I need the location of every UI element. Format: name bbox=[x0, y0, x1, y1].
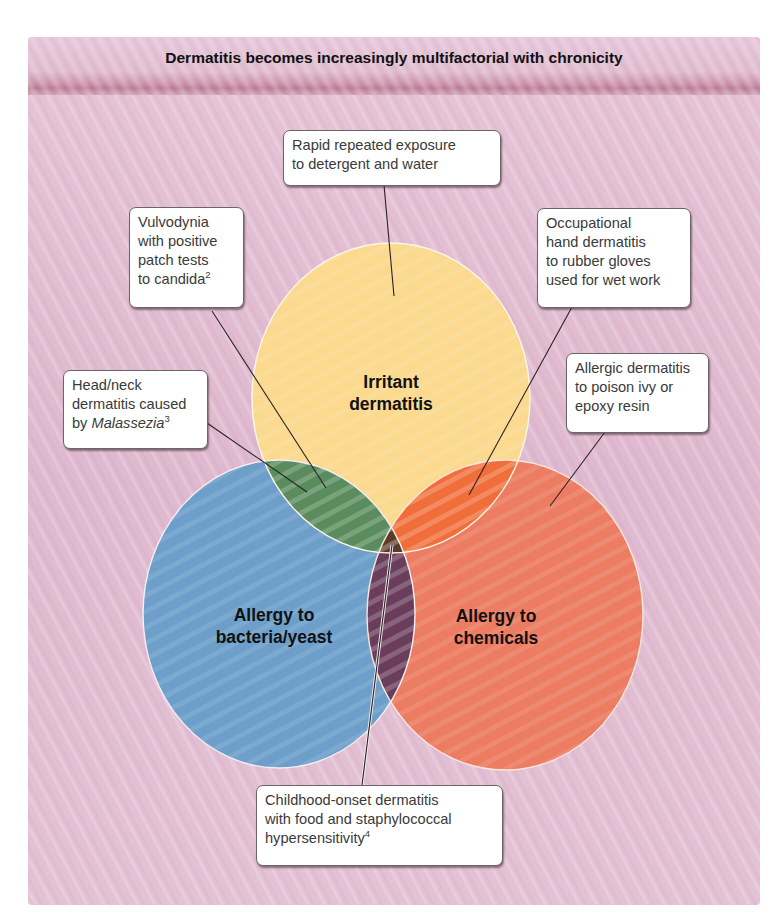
callout-text: by bbox=[72, 415, 91, 431]
label-line: Allergy to bbox=[194, 604, 354, 626]
callout-line: to candida2 bbox=[138, 270, 235, 289]
callout-line: Head/neck bbox=[72, 376, 199, 395]
callout-vulvodynia: Vulvodynia with positive patch tests to … bbox=[129, 207, 244, 308]
label-allergy-chemicals: Allergy to chemicals bbox=[426, 605, 566, 649]
callout-line: patch tests bbox=[138, 251, 235, 270]
callout-line: epoxy resin bbox=[575, 397, 700, 416]
label-line: bacteria/yeast bbox=[194, 626, 354, 648]
callout-line: Allergic dermatitis bbox=[575, 359, 700, 378]
callout-line: Vulvodynia bbox=[138, 213, 235, 232]
callout-line: hand dermatitis bbox=[546, 233, 682, 252]
callout-line: dermatitis caused bbox=[72, 395, 199, 414]
footnote-ref: 3 bbox=[164, 413, 169, 424]
label-line: Allergy to bbox=[426, 605, 566, 627]
callout-line: Occupational bbox=[546, 214, 682, 233]
callout-allergic-dermatitis: Allergic dermatitis to poison ivy or epo… bbox=[566, 353, 709, 433]
callout-headneck: Head/neck dermatitis caused by Malassezi… bbox=[63, 370, 208, 449]
footnote-ref: 4 bbox=[365, 828, 370, 839]
callout-line: to detergent and water bbox=[292, 155, 492, 174]
callout-text: hypersensitivity bbox=[265, 830, 365, 846]
callout-line: Rapid repeated exposure bbox=[292, 136, 492, 155]
diagram-panel: Dermatitis becomes increasingly multifac… bbox=[28, 37, 760, 905]
callout-childhood-onset: Childhood-onset dermatitis with food and… bbox=[256, 785, 503, 866]
callout-line: to rubber gloves bbox=[546, 252, 682, 271]
callout-rapid-exposure: Rapid repeated exposure to detergent and… bbox=[283, 130, 501, 186]
callout-text: to candida bbox=[138, 271, 205, 287]
callout-line: by Malassezia3 bbox=[72, 414, 199, 433]
callout-line: with positive bbox=[138, 232, 235, 251]
callout-line: hypersensitivity4 bbox=[265, 829, 494, 848]
callout-line: to poison ivy or bbox=[575, 378, 700, 397]
callout-line: used for wet work bbox=[546, 271, 682, 290]
label-line: chemicals bbox=[426, 627, 566, 649]
organism-name: Malassezia bbox=[91, 415, 164, 431]
callout-line: with food and staphylococcal bbox=[265, 810, 494, 829]
label-line: Irritant bbox=[321, 371, 461, 393]
callout-line: Childhood-onset dermatitis bbox=[265, 791, 494, 810]
label-irritant-dermatitis: Irritant dermatitis bbox=[321, 371, 461, 415]
callout-occupational: Occupational hand dermatitis to rubber g… bbox=[537, 208, 691, 308]
footnote-ref: 2 bbox=[205, 269, 210, 280]
label-line: dermatitis bbox=[321, 393, 461, 415]
label-allergy-bacteria-yeast: Allergy to bacteria/yeast bbox=[194, 604, 354, 648]
